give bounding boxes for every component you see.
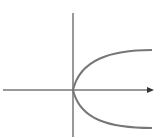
x-axis-arrow-icon bbox=[147, 87, 154, 93]
parabola-curve bbox=[73, 50, 152, 128]
parabola-diagram bbox=[0, 0, 162, 138]
